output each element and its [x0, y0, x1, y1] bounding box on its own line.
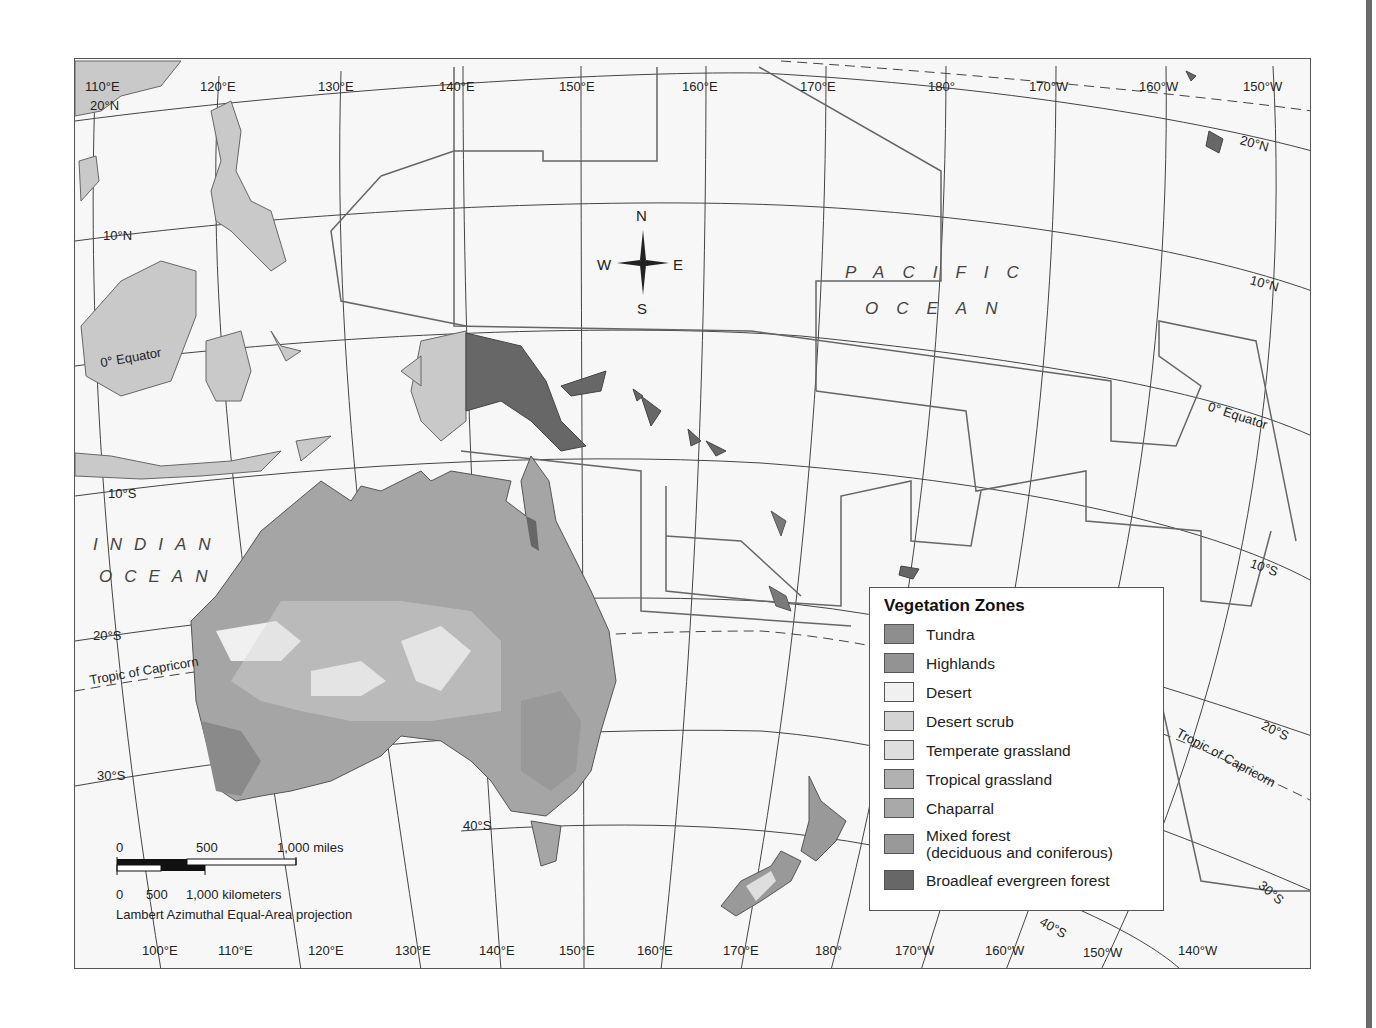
- legend-label: Mixed forest(deciduous and coniferous): [926, 827, 1113, 861]
- lon-label-top: 160°E: [682, 80, 718, 93]
- lon-label-bottom: 100°E: [142, 944, 178, 957]
- lon-label-bottom: 180°: [815, 944, 842, 957]
- legend-label: Desert scrub: [926, 713, 1014, 730]
- lon-label-top: 130°E: [318, 80, 354, 93]
- indian-ocean-label: OCEAN: [99, 567, 219, 587]
- scale-miles-500: 500: [196, 840, 218, 855]
- legend: Vegetation Zones Tundra Highlands Desert…: [869, 587, 1164, 911]
- page-edge-bar: [1366, 0, 1372, 1028]
- scale-bar-graphic: [116, 857, 301, 879]
- lon-label-bottom: 120°E: [308, 944, 344, 957]
- lon-label-top: 150°W: [1243, 80, 1282, 93]
- lon-label-bottom: 170°E: [723, 944, 759, 957]
- legend-swatch: [884, 711, 914, 731]
- pacific-ocean-label: PACIFIC: [845, 263, 1037, 283]
- legend-item-tropical-grassland: Tropical grassland: [884, 769, 1149, 789]
- legend-swatch: [884, 798, 914, 818]
- compass-west: W: [597, 256, 611, 273]
- legend-item-desert-scrub: Desert scrub: [884, 711, 1149, 731]
- legend-item-highlands: Highlands: [884, 653, 1149, 673]
- legend-swatch: [884, 769, 914, 789]
- legend-swatch: [884, 682, 914, 702]
- lon-label-top: 120°E: [200, 80, 236, 93]
- scale-miles-1000: 1,000 miles: [277, 840, 343, 855]
- legend-label: Tropical grassland: [926, 771, 1052, 788]
- legend-label: Broadleaf evergreen forest: [926, 872, 1110, 889]
- legend-swatch: [884, 740, 914, 760]
- legend-item-tundra: Tundra: [884, 624, 1149, 644]
- lon-label-top: 110°E: [85, 80, 120, 93]
- lon-label-bottom: 170°W: [895, 944, 934, 957]
- legend-label: Chaparral: [926, 800, 994, 817]
- lat-label-left: 10°N: [103, 229, 132, 242]
- lon-label-top: 170°W: [1029, 80, 1068, 93]
- legend-title: Vegetation Zones: [884, 596, 1149, 616]
- legend-label: Desert: [926, 684, 972, 701]
- pacific-ocean-label: OCEAN: [865, 299, 1015, 319]
- lat-label-left: 20°N: [90, 99, 119, 112]
- lon-label-top: 170°E: [800, 80, 836, 93]
- lat-label-left: 20°S: [93, 629, 121, 642]
- scale-km-0: 0: [116, 887, 123, 902]
- lon-label-bottom: 150°W: [1083, 946, 1122, 959]
- legend-swatch: [884, 653, 914, 673]
- compass-north: N: [636, 207, 647, 224]
- legend-label: Highlands: [926, 655, 995, 672]
- lon-label-bottom: 130°E: [395, 944, 431, 957]
- lon-label-top: 180°: [928, 80, 955, 93]
- scale-km-500: 500: [146, 887, 168, 902]
- lon-label-bottom: 110°E: [218, 944, 253, 957]
- projection-label: Lambert Azimuthal Equal-Area projection: [116, 907, 352, 922]
- legend-swatch: [884, 870, 914, 890]
- compass-east: E: [673, 256, 683, 273]
- legend-item-temperate-grassland: Temperate grassland: [884, 740, 1149, 760]
- lon-label-top: 150°E: [559, 80, 595, 93]
- legend-item-broadleaf-evergreen-forest: Broadleaf evergreen forest: [884, 870, 1149, 890]
- lon-label-top: 160°W: [1139, 80, 1178, 93]
- lon-label-bottom: 140°W: [1178, 944, 1217, 957]
- legend-item-desert: Desert: [884, 682, 1149, 702]
- indian-ocean-label: INDIAN: [93, 535, 223, 555]
- lon-label-bottom: 150°E: [559, 944, 595, 957]
- lon-label-bottom: 160°W: [985, 944, 1024, 957]
- lat-label-left: 10°S: [108, 487, 136, 500]
- legend-swatch: [884, 624, 914, 644]
- lon-label-bottom: 160°E: [637, 944, 673, 957]
- lat-label-left: 30°S: [97, 769, 125, 782]
- legend-label: Tundra: [926, 626, 975, 643]
- legend-swatch: [884, 834, 914, 854]
- lon-label-bottom: 140°E: [479, 944, 515, 957]
- scale-miles-0: 0: [116, 840, 123, 855]
- compass-south: S: [637, 300, 647, 317]
- lat-label-left: 40°S: [463, 819, 491, 832]
- legend-item-mixed-forest: Mixed forest(deciduous and coniferous): [884, 827, 1149, 861]
- lon-label-top: 140°E: [439, 80, 475, 93]
- scale-km-1000: 1,000 kilometers: [186, 887, 281, 902]
- compass-rose: N S E W: [597, 205, 692, 320]
- legend-label: Temperate grassland: [926, 742, 1071, 759]
- legend-item-chaparral: Chaparral: [884, 798, 1149, 818]
